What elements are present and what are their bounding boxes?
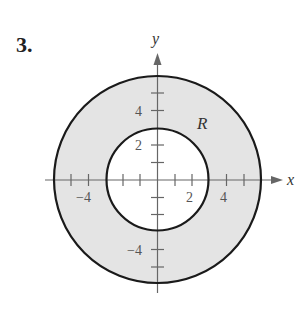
x-tick-label-neg4: −4 (76, 190, 91, 205)
annulus-diagram: 3. x y −4 2 4 4 2 −4 R (0, 0, 303, 309)
y-tick-label-2: 2 (135, 138, 142, 153)
x-axis-arrow-icon (271, 176, 283, 184)
x-axis-label: x (286, 171, 294, 188)
problem-number: 3. (16, 32, 33, 57)
y-tick-label-4: 4 (135, 104, 142, 119)
y-axis-label: y (150, 30, 160, 48)
region-label: R (196, 114, 208, 133)
y-tick-label-neg4: −4 (127, 243, 142, 258)
y-axis-arrow-icon (154, 53, 162, 65)
x-tick-label-2: 2 (186, 190, 193, 205)
x-tick-label-4: 4 (220, 190, 227, 205)
